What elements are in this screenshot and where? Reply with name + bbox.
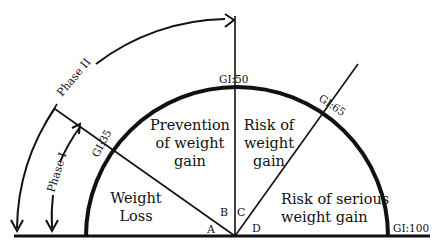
- svg-text:Prevention: Prevention: [150, 117, 230, 133]
- phase2-top-arrow-icon: [225, 14, 234, 27]
- phase1-label: Phase I: [44, 151, 69, 194]
- gi100-label: GI:100: [393, 222, 429, 234]
- phase2-arc: [17, 108, 55, 228]
- svg-text:gain: gain: [174, 153, 206, 169]
- gi50-label: GI:50: [219, 73, 248, 85]
- svg-text:gain: gain: [253, 153, 285, 169]
- angle-b-label: B: [220, 206, 228, 219]
- svg-text:Risk of serious: Risk of serious: [281, 191, 389, 207]
- phase2-arc-upper: [96, 19, 225, 64]
- region-serious-risk: Risk of serious weight gain: [281, 191, 389, 225]
- phase1-arc-lower: [52, 195, 53, 228]
- svg-text:of weight: of weight: [156, 135, 225, 151]
- angle-d-label: D: [252, 222, 261, 235]
- angle-c-label: C: [237, 206, 245, 219]
- region-weight-loss: Weight Loss: [110, 190, 162, 224]
- gi-diagram: Phase II Phase I GI:35 GI:50 GI:65 GI:10…: [0, 0, 446, 245]
- svg-text:weight: weight: [244, 135, 294, 151]
- phase2-label: Phase II: [54, 56, 93, 99]
- svg-text:Loss: Loss: [119, 208, 152, 224]
- region-prevention: Prevention of weight gain: [150, 117, 230, 169]
- svg-text:Weight: Weight: [110, 190, 162, 206]
- svg-text:Risk of: Risk of: [244, 117, 296, 133]
- angle-a-label: A: [206, 223, 216, 236]
- svg-text:weight gain: weight gain: [281, 209, 368, 225]
